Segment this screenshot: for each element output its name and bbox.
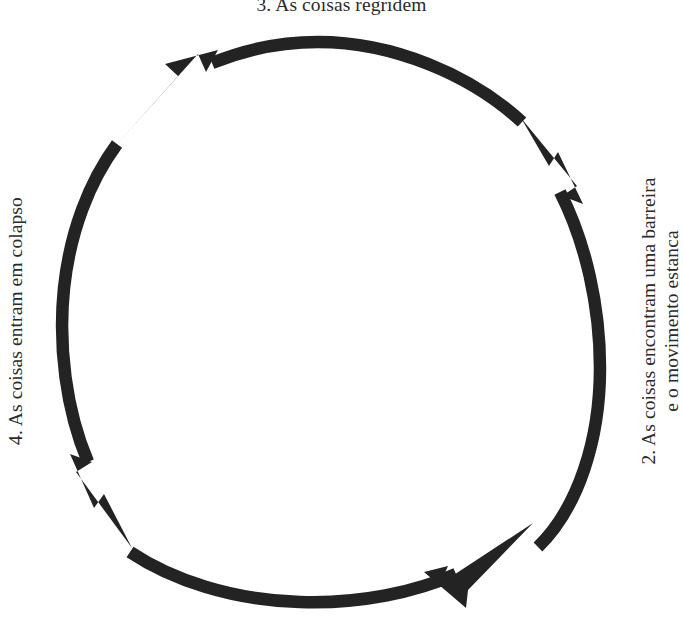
- arrowhead-left: [70, 454, 132, 548]
- stage-2-label-line-2: e o movimento estanca: [660, 177, 683, 464]
- arc-right-segment: [521, 118, 600, 547]
- arrowhead-bottom: [424, 523, 533, 608]
- arc-top-segment: [110, 42, 522, 152]
- stage-2-label-line-1: 2. As coisas encontram uma barreira: [637, 177, 660, 464]
- cycle-arrows-svg: [0, 0, 683, 641]
- cycle-diagram: [0, 0, 683, 641]
- arc-bottom-segment: [130, 523, 533, 608]
- stage-2-label: 2. As coisas encontram uma barreira e o …: [637, 0, 683, 641]
- arrowhead-top: [110, 50, 218, 152]
- stage-4-label: 4. As coisas entram em colapso: [0, 0, 30, 641]
- stage-4-label-text: 4. As coisas entram em colapso: [4, 197, 27, 445]
- diagram-page: 3. As coisas regridem 2. As coisas encon…: [0, 0, 683, 641]
- stage-3-label: 3. As coisas regridem: [0, 0, 683, 16]
- arrowhead-right: [521, 118, 583, 204]
- arc-left-segment: [62, 144, 132, 548]
